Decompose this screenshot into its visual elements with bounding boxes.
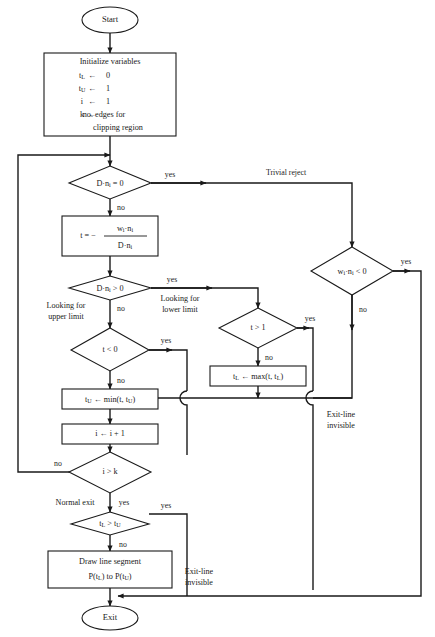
label-looking-lower-2: lower limit [162, 305, 198, 314]
node-draw-line-segment: Draw line segment P(tL) to P(tU) [48, 551, 172, 588]
start-label: Start [102, 14, 119, 24]
t-formula-numerator: wi·ni [117, 224, 133, 234]
label-no-wn: no [359, 305, 367, 314]
i-greater-k-label: i > k [102, 467, 118, 476]
edge-wn-no-down [313, 295, 352, 398]
label-trivial-reject: Trivial reject [266, 168, 307, 177]
label-looking-upper-2: upper limit [48, 312, 84, 321]
edge-dn0-yes-trivial-reject [151, 183, 352, 247]
t-less-zero-label: t < 0 [102, 345, 117, 354]
label-yes-wn: yes [401, 257, 411, 266]
node-start: Start [82, 7, 138, 33]
label-yes-trivial: yes [165, 170, 175, 179]
node-decision-d-dot-n-equals-zero: D·ni = 0 [69, 166, 151, 199]
exit-label: Exit [103, 612, 118, 622]
label-no-dn0: no [117, 203, 125, 212]
flowchart-diagram: Start Initialize variables tL ← 0 tU ← 1 [0, 0, 435, 637]
node-t-formula: t = − wi·ni D·ni [62, 216, 158, 256]
t-formula-lhs: t = − [80, 231, 96, 240]
node-decision-w-dot-n-less-zero: wi·ni < 0 [311, 247, 393, 295]
svg-text:1: 1 [106, 84, 110, 93]
flowchart-canvas: Start Initialize variables tL ← 0 tU ← 1 [0, 0, 435, 637]
label-exit-invisible-bottom-2: invisible [185, 578, 213, 587]
assign-tl-max-label: tL ← max(t, tL) [233, 371, 284, 381]
node-assign-tu-min: tU ← min(t, tU) [62, 389, 158, 409]
svg-text:0: 0 [106, 71, 110, 80]
node-decision-i-greater-k: i > k [69, 452, 151, 493]
node-decision-t-greater-one: t > 1 [219, 308, 297, 348]
label-looking-upper-1: Looking for [47, 301, 86, 310]
increment-i-label: i ← i + 1 [95, 429, 125, 438]
node-assign-tl-max: tL ← max(t, tL) [210, 366, 306, 386]
label-yes-tlgttu: yes [161, 501, 171, 510]
label-no-tgt1: no [265, 353, 273, 362]
t-formula-denominator: D·ni [118, 241, 133, 251]
svg-text:1: 1 [106, 97, 110, 106]
assign-tu-min-label: tU ← min(t, tU) [85, 394, 135, 404]
node-decision-tl-greater-tu: tL > tU [71, 512, 149, 535]
svg-text:←: ← [88, 97, 96, 106]
node-increment-i: i ← i + 1 [62, 424, 158, 444]
node-decision-t-less-zero: t < 0 [71, 328, 149, 371]
label-normal-exit: Normal exit [56, 498, 96, 507]
label-exit-invisible-right-1: Exit-line [327, 410, 356, 419]
draw-line-segment-line1: Draw line segment [79, 557, 142, 566]
label-exit-invisible-right-2: invisible [327, 421, 355, 430]
edge-hop-left-merge [180, 391, 187, 455]
label-looking-lower-1: Looking for [161, 294, 200, 303]
label-yes-tlt0: yes [161, 336, 171, 345]
label-yes-igtk: yes [119, 498, 129, 507]
label-no-tlgttu: no [119, 540, 127, 549]
svg-text:no. edges for: no. edges for [83, 110, 126, 119]
svg-text:←: ← [88, 71, 96, 80]
svg-text:←: ← [88, 84, 96, 93]
t-greater-one-label: t > 1 [250, 323, 265, 332]
label-no-tlt0: no [117, 376, 125, 385]
initialize-line-k: k ← no. edges for [80, 110, 126, 119]
label-no-igtk: no [54, 459, 62, 468]
initialize-continuation: clipping region [93, 123, 143, 132]
label-exit-invisible-bottom-1: Exit-line [185, 567, 214, 576]
node-initialize: Initialize variables tL ← 0 tU ← 1 i ← 1 [44, 53, 176, 136]
node-exit: Exit [82, 606, 138, 630]
node-decision-d-dot-n-greater-zero: D·ni > 0 [69, 276, 151, 300]
edge-hop-right-merge [306, 391, 313, 590]
d-dot-n-equals-zero-label: D·ni = 0 [96, 178, 123, 188]
label-yes-dngt0: yes [167, 275, 177, 284]
edge-tlt0-yes-to-merge [149, 350, 187, 391]
d-dot-n-greater-zero-label: D·ni > 0 [96, 283, 123, 293]
label-no-dngt0: no [117, 304, 125, 313]
initialize-heading: Initialize variables [80, 57, 141, 66]
label-yes-tgt1: yes [305, 314, 315, 323]
